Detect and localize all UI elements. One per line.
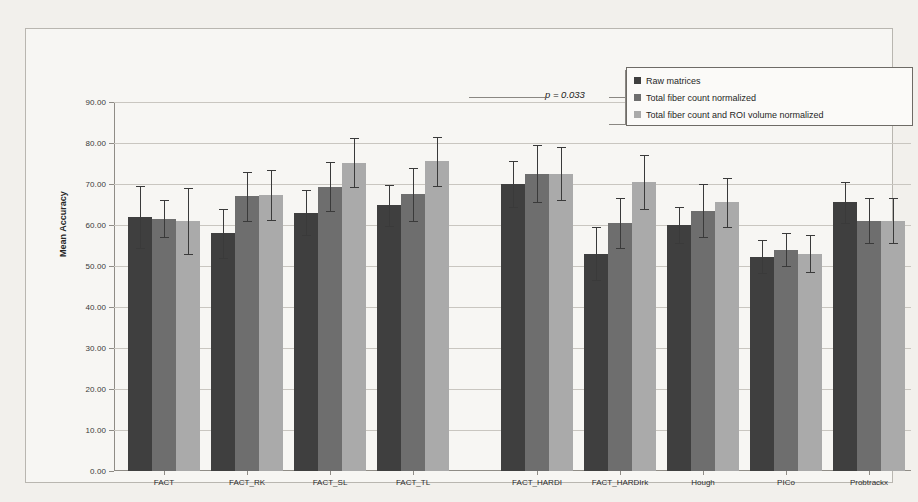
bar[interactable] — [525, 174, 549, 471]
bar[interactable] — [377, 205, 401, 471]
error-bar-cap-upper — [409, 168, 418, 169]
chart-frame: Mean Accuracy 0.0010.0020.0030.0040.0050… — [25, 28, 893, 483]
chart-figure: Mean Accuracy 0.0010.0020.0030.0040.0050… — [0, 0, 918, 502]
error-bar-cap-upper — [509, 161, 518, 162]
bar[interactable] — [128, 217, 152, 471]
error-bar — [389, 185, 390, 226]
legend-swatch-icon — [634, 94, 641, 101]
error-bar — [537, 145, 538, 202]
error-bar-cap-upper — [782, 233, 791, 234]
x-axis-category-label: PICo — [777, 478, 795, 487]
error-bar-cap-lower — [675, 243, 684, 244]
bar[interactable] — [294, 213, 318, 471]
bar[interactable] — [584, 254, 608, 471]
bar[interactable] — [176, 221, 200, 471]
error-bar-cap-upper — [433, 137, 442, 138]
error-bar — [561, 147, 562, 200]
error-bar-cap-upper — [533, 145, 542, 146]
error-bar-cap-lower — [699, 237, 708, 238]
bar-group: FACT_SL — [294, 102, 370, 471]
legend-swatch-icon — [634, 111, 641, 118]
error-bar — [786, 233, 787, 266]
x-axis-tick — [413, 471, 414, 475]
y-axis-tick — [109, 266, 114, 267]
error-bar-cap-upper — [243, 172, 252, 173]
bar[interactable] — [235, 196, 259, 471]
error-bar-cap-upper — [841, 182, 850, 183]
bar[interactable] — [750, 257, 774, 471]
error-bar-cap-lower — [385, 226, 394, 227]
error-bar-cap-lower — [865, 243, 874, 244]
bar[interactable] — [318, 187, 342, 471]
error-bar-cap-upper — [865, 198, 874, 199]
error-bar-cap-lower — [723, 227, 732, 228]
error-bar-cap-upper — [557, 147, 566, 148]
bar[interactable] — [342, 163, 366, 471]
legend-item[interactable]: Total fiber count normalized — [634, 89, 906, 106]
error-bar-cap-upper — [889, 198, 898, 199]
bar[interactable] — [259, 195, 283, 471]
bar[interactable] — [152, 219, 176, 471]
y-axis-tick-label: 40.00 — [85, 303, 106, 312]
bar[interactable] — [425, 161, 449, 471]
y-axis-tick — [109, 471, 114, 472]
error-bar-cap-upper — [675, 207, 684, 208]
error-bar-cap-upper — [350, 138, 359, 139]
p-value-annotation: p = 0.033 — [545, 89, 585, 100]
p-value-bracket-lower — [609, 124, 626, 125]
error-bar-cap-upper — [640, 155, 649, 156]
y-axis-tick-label: 90.00 — [85, 98, 106, 107]
bar[interactable] — [715, 202, 739, 471]
bar[interactable] — [798, 254, 822, 471]
x-axis-tick — [869, 471, 870, 475]
error-bar-cap-lower — [267, 220, 276, 221]
x-axis-category-label: FACT_TL — [396, 478, 430, 487]
bar-group: FACT_TL — [377, 102, 453, 471]
x-axis-category-label: FACT_HARDI — [512, 478, 562, 487]
error-bar-cap-upper — [267, 170, 276, 171]
y-axis-tick-label: 20.00 — [85, 385, 106, 394]
error-bar-cap-upper — [219, 209, 228, 210]
bar-group: FACT_HARDI — [501, 102, 577, 471]
x-axis-category-label: FACT_SL — [313, 478, 348, 487]
bar[interactable] — [833, 202, 857, 471]
bar[interactable] — [881, 221, 905, 471]
legend-item[interactable]: Raw matrices — [634, 72, 906, 89]
legend-item[interactable]: Total fiber count and ROI volume normali… — [634, 106, 906, 123]
bar[interactable] — [857, 221, 881, 471]
error-bar-cap-lower — [160, 237, 169, 238]
x-axis-tick — [703, 471, 704, 475]
error-bar — [247, 172, 248, 221]
error-bar-cap-lower — [243, 221, 252, 222]
error-bar-cap-upper — [184, 188, 193, 189]
bar[interactable] — [501, 184, 525, 471]
error-bar — [762, 240, 763, 273]
bar[interactable] — [774, 250, 798, 471]
error-bar — [869, 198, 870, 243]
bar[interactable] — [691, 211, 715, 471]
y-axis-tick-label: 80.00 — [85, 139, 106, 148]
error-bar — [679, 207, 680, 244]
bar-group: Probtrackx — [833, 102, 909, 471]
error-bar-cap-upper — [385, 185, 394, 186]
x-axis-tick — [786, 471, 787, 475]
error-bar — [330, 162, 331, 211]
error-bar — [164, 200, 165, 237]
error-bar-cap-lower — [409, 221, 418, 222]
bar-group: FACT_RK — [211, 102, 287, 471]
bar[interactable] — [549, 174, 573, 471]
p-value-bracket-left — [469, 97, 545, 98]
error-bar — [354, 138, 355, 187]
bar[interactable] — [608, 223, 632, 471]
bar[interactable] — [211, 233, 235, 471]
bar[interactable] — [667, 225, 691, 471]
bar[interactable] — [632, 182, 656, 471]
y-axis-tick-label: 0.00 — [90, 467, 106, 476]
y-axis-tick — [109, 184, 114, 185]
error-bar-cap-lower — [533, 202, 542, 203]
bar[interactable] — [401, 194, 425, 471]
y-axis-tick — [109, 389, 114, 390]
y-axis-tick-label: 60.00 — [85, 221, 106, 230]
bar-group: Hough — [667, 102, 743, 471]
legend-item-label: Total fiber count normalized — [646, 93, 756, 103]
